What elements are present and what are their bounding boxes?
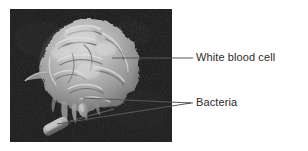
micrograph-image	[10, 9, 172, 142]
labeled-micrograph-figure: White blood cell Bacteria	[0, 0, 308, 151]
label-bacteria: Bacteria	[196, 97, 237, 108]
micrograph-photo	[10, 9, 172, 142]
label-white-blood-cell: White blood cell	[196, 52, 275, 63]
